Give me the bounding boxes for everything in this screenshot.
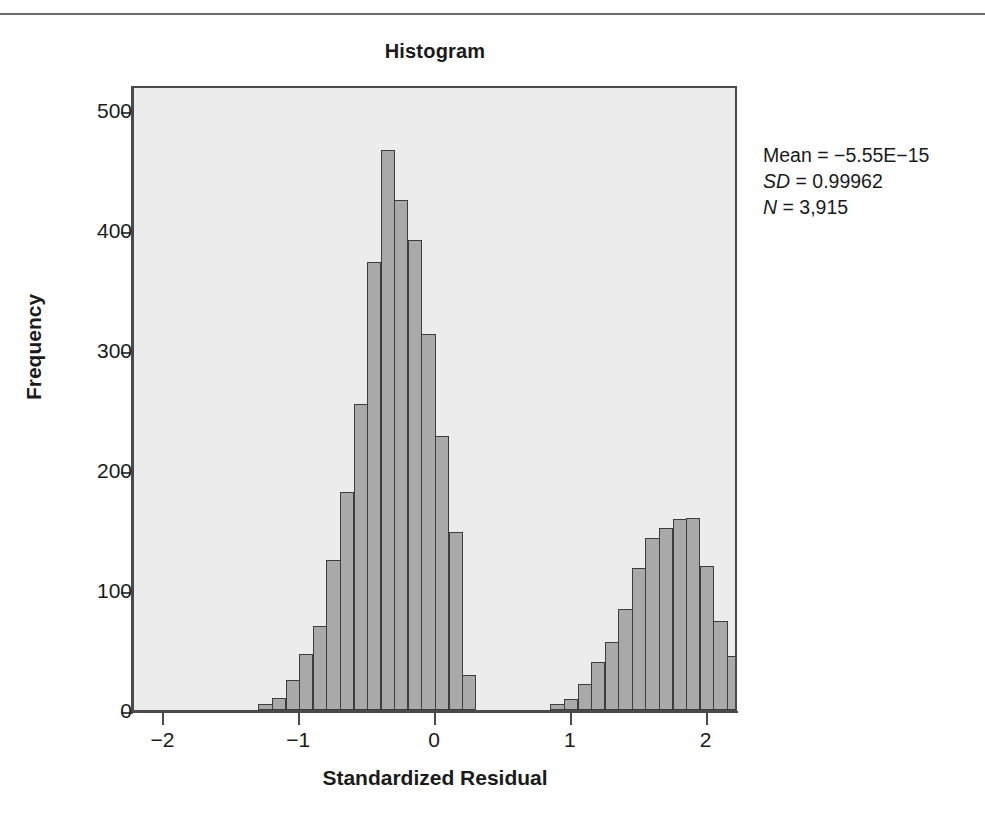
histogram-bar (618, 609, 632, 710)
histogram-bar (578, 684, 592, 710)
histogram-bar (367, 262, 381, 710)
x-tick-label: 0 (404, 728, 464, 752)
x-tick-label: 1 (540, 728, 600, 752)
histogram-bar (435, 436, 449, 710)
plot-area (132, 86, 737, 712)
histogram-bar (286, 680, 300, 710)
histogram-figure: Histogram 0100200300400500 Frequency −2−… (0, 0, 985, 827)
histogram-bar (686, 518, 700, 710)
histogram-bar (299, 654, 313, 710)
page-canvas: Histogram 0100200300400500 Frequency −2−… (0, 0, 985, 827)
x-tick-mark (298, 713, 300, 725)
histogram-bar (354, 404, 368, 710)
histogram-bar (550, 704, 564, 710)
stat-mean-text: Mean = −5.55E−15 (763, 144, 929, 166)
x-tick-mark (434, 713, 436, 725)
histogram-bar (408, 240, 422, 710)
stat-n-value: = 3,915 (777, 196, 848, 218)
histogram-bar (313, 626, 327, 710)
y-axis-line (131, 86, 133, 714)
histogram-bar (659, 528, 673, 710)
y-tick-label: 0 (72, 699, 132, 723)
x-tick-mark (706, 713, 708, 725)
histogram-bar (632, 568, 646, 710)
x-tick-label: −2 (132, 728, 192, 752)
y-tick-label: 100 (72, 579, 132, 603)
statistics-annotation: Mean = −5.55E−15 SD = 0.99962 N = 3,915 (763, 142, 929, 220)
histogram-bar (605, 642, 619, 710)
stat-mean: Mean = −5.55E−15 (763, 142, 929, 168)
y-tick-label: 300 (72, 339, 132, 363)
x-tick-label: 2 (676, 728, 736, 752)
histogram-bar (449, 532, 463, 710)
histogram-bar (394, 200, 408, 710)
histogram-bar (326, 560, 340, 710)
histogram-bar (564, 699, 578, 710)
histogram-bar (258, 704, 272, 710)
histogram-bar (713, 621, 727, 710)
y-tick-label: 200 (72, 459, 132, 483)
x-axis-title: Standardized Residual (132, 766, 738, 790)
histogram-bar (727, 656, 735, 710)
y-tick-label: 500 (72, 99, 132, 123)
x-tick-mark (162, 713, 164, 725)
histogram-bar (421, 334, 435, 710)
stat-sd: SD = 0.99962 (763, 168, 929, 194)
y-tick-label: 400 (72, 219, 132, 243)
x-tick-mark (570, 713, 572, 725)
stat-sd-symbol: SD (763, 170, 790, 192)
histogram-bar (272, 698, 286, 710)
stat-n-symbol: N (763, 196, 777, 218)
histogram-bar (462, 675, 476, 710)
stat-sd-value: = 0.99962 (790, 170, 883, 192)
histogram-bar (340, 492, 354, 710)
stat-n: N = 3,915 (763, 194, 929, 220)
histogram-bar (591, 662, 605, 710)
histogram-bar (673, 519, 687, 710)
histogram-bar (645, 538, 659, 710)
x-tick-label: −1 (268, 728, 328, 752)
histogram-bar (381, 150, 395, 710)
y-axis-title: Frequency (22, 237, 46, 457)
histogram-bars (134, 88, 735, 710)
histogram-bar (700, 566, 714, 710)
chart-title: Histogram (132, 40, 738, 63)
